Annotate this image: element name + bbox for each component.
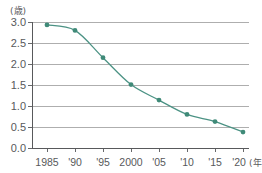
x-axis-unit-label: (年) [249, 157, 262, 168]
line-chart: (歳) 3.0 2.5 2.0 1.5 [0, 0, 262, 173]
x-tick-label-2015: '15 [208, 156, 222, 168]
data-point-2000 [129, 82, 134, 87]
x-axis-labels: 1985 '90 '95 2000 '05 '10 '15 '20 [35, 156, 246, 168]
y-tick-label-3-0: 3.0 [11, 16, 26, 28]
y-tick-label-1-0: 1.0 [11, 100, 26, 112]
y-tick-label-2-5: 2.5 [11, 37, 26, 49]
x-axis-ticks [47, 148, 243, 152]
y-axis-unit-label: (歳) [10, 5, 26, 16]
data-point-1995 [101, 55, 106, 60]
y-axis-ticks [28, 22, 32, 148]
data-point-2020 [241, 130, 246, 135]
x-tick-label-1985: 1985 [35, 156, 59, 168]
y-tick-label-0-0: 0.0 [11, 142, 26, 154]
y-axis-labels: 3.0 2.5 2.0 1.5 1.0 0.5 0.0 [11, 16, 26, 154]
data-point-1990 [73, 28, 78, 33]
series-line [47, 25, 243, 132]
chart-canvas: (歳) 3.0 2.5 2.0 1.5 [0, 0, 262, 173]
series-markers [45, 23, 246, 135]
y-tick-label-2-0: 2.0 [11, 58, 26, 70]
x-tick-label-2010: '10 [180, 156, 194, 168]
gridlines [32, 22, 249, 127]
x-tick-label-2005: '05 [152, 156, 166, 168]
data-point-2015 [213, 119, 218, 124]
x-tick-label-2000: 2000 [119, 156, 143, 168]
x-tick-label-2020: '20 [232, 156, 246, 168]
x-tick-label-1995: '95 [96, 156, 110, 168]
data-point-2005 [157, 98, 162, 103]
y-tick-label-0-5: 0.5 [11, 121, 26, 133]
data-point-2010 [185, 112, 190, 117]
x-tick-label-1990: '90 [68, 156, 82, 168]
y-tick-label-1-5: 1.5 [11, 79, 26, 91]
data-point-1985 [45, 23, 50, 28]
